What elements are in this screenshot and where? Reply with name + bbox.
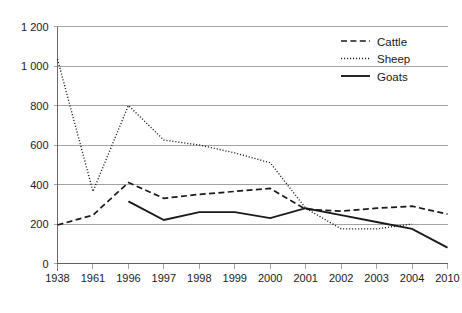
y-tick-label: 600: [30, 139, 48, 151]
series-line-cattle: [58, 183, 448, 225]
legend-label-sheep: Sheep: [377, 53, 410, 65]
y-tick-label: 200: [30, 218, 48, 230]
x-tick-label: 2001: [293, 272, 317, 284]
series-line-sheep: [58, 59, 413, 229]
x-tick-label: 1999: [223, 272, 247, 284]
chart-legend: CattleSheepGoats: [341, 36, 410, 83]
x-tick-label: 2000: [258, 272, 282, 284]
y-tick-label: 1 200: [21, 21, 49, 33]
y-tick-label: 400: [30, 179, 48, 191]
x-tick-label: 2002: [329, 272, 353, 284]
x-axis-tick-labels: 1938196119961997199819992000200120022003…: [45, 272, 459, 284]
x-tick-label: 2010: [435, 272, 459, 284]
x-tick-label: 2004: [400, 272, 424, 284]
x-tick-label: 1997: [152, 272, 176, 284]
x-axis-tick-marks: [58, 264, 448, 269]
legend-label-goats: Goats: [377, 71, 408, 83]
data-series: [58, 59, 448, 248]
x-tick-label: 1961: [81, 272, 105, 284]
chart-canvas: 02004006008001 0001 200 1938196119961997…: [0, 0, 462, 313]
x-tick-label: 1938: [45, 272, 69, 284]
series-line-goats: [128, 201, 447, 247]
y-tick-label: 1 000: [21, 60, 49, 72]
line-chart: 02004006008001 0001 200 1938196119961997…: [0, 0, 462, 313]
legend-label-cattle: Cattle: [377, 36, 407, 48]
y-axis-tick-labels: 02004006008001 0001 200: [21, 21, 58, 270]
y-tick-label: 800: [30, 100, 48, 112]
x-tick-label: 1998: [187, 272, 211, 284]
x-tick-label: 2003: [364, 272, 388, 284]
x-tick-label: 1996: [116, 272, 140, 284]
y-tick-label: 0: [42, 258, 48, 270]
